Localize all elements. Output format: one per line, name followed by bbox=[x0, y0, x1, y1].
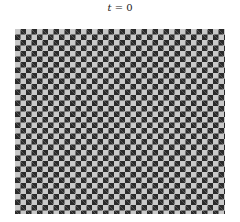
checkerboard-image bbox=[15, 29, 225, 214]
equals-sign: = bbox=[111, 2, 126, 13]
time-value: 0 bbox=[126, 2, 132, 13]
frame-title: t = 0 bbox=[0, 2, 240, 13]
